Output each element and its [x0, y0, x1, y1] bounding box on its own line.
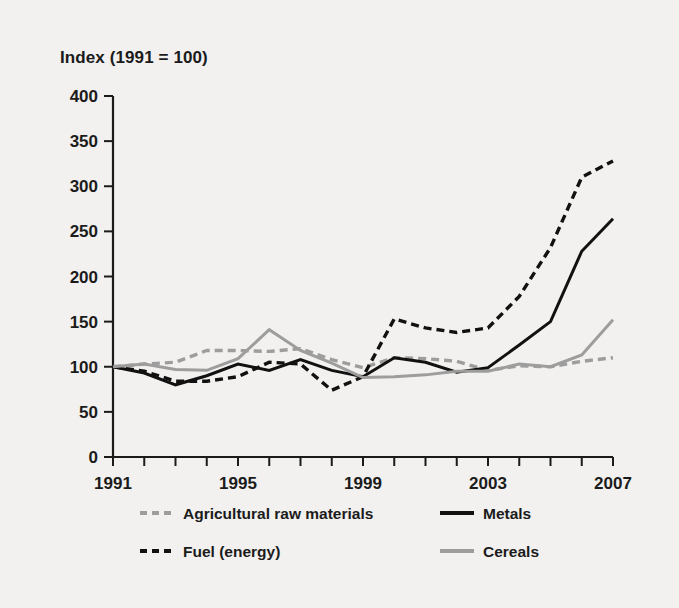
y-tick-label: 200	[70, 268, 98, 287]
chart-legend: Agricultural raw materialsMetalsFuel (en…	[140, 505, 539, 560]
x-tick-label: 1995	[219, 474, 257, 493]
y-tick-label: 400	[70, 87, 98, 106]
chart-plot-area: 050100150200250300350400 199119951999200…	[0, 0, 679, 608]
y-tick-label: 150	[70, 313, 98, 332]
x-tick-label: 1999	[344, 474, 382, 493]
legend-entry: Fuel (energy)	[140, 543, 280, 560]
y-axis-ticks	[104, 96, 113, 457]
x-tick-label: 1991	[94, 474, 132, 493]
y-axis-tick-labels: 050100150200250300350400	[70, 87, 98, 467]
legend-entry: Metals	[440, 505, 531, 522]
legend-entry: Agricultural raw materials	[140, 505, 373, 522]
x-tick-label: 2007	[594, 474, 632, 493]
legend-label: Agricultural raw materials	[183, 505, 373, 522]
y-tick-label: 0	[89, 448, 98, 467]
axis-frame	[113, 96, 613, 457]
x-axis-tick-labels: 19911995199920032007	[94, 474, 632, 493]
series-line-fuel-energy	[113, 161, 613, 390]
y-tick-label: 100	[70, 358, 98, 377]
legend-entry: Cereals	[440, 543, 539, 560]
x-axis-ticks	[113, 457, 613, 466]
legend-label: Fuel (energy)	[183, 543, 280, 560]
series-line-metals	[113, 219, 613, 385]
legend-label: Cereals	[483, 543, 539, 560]
x-tick-label: 2003	[469, 474, 507, 493]
legend-label: Metals	[483, 505, 531, 522]
data-series-group	[113, 161, 613, 390]
y-tick-label: 350	[70, 132, 98, 151]
commodity-price-index-chart: Index (1991 = 100) 050100150200250300350…	[0, 0, 679, 608]
series-line-cereals	[113, 320, 613, 378]
y-tick-label: 50	[79, 403, 98, 422]
y-tick-label: 300	[70, 177, 98, 196]
y-tick-label: 250	[70, 222, 98, 241]
